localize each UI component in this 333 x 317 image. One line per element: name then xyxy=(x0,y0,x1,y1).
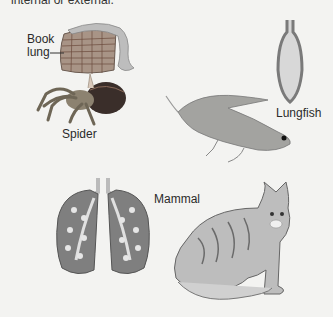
caption-fragment: internal or external. xyxy=(11,0,114,7)
book-lung-illustration xyxy=(58,24,138,76)
label-spider: Spider xyxy=(62,128,97,141)
lungfish-illustration xyxy=(158,88,298,163)
mammal-lungs-illustration xyxy=(54,178,152,278)
book-lung-leader-line xyxy=(50,52,64,54)
spider-illustration xyxy=(30,74,130,126)
label-book-lung: Book lung xyxy=(27,33,54,59)
cat-illustration xyxy=(168,178,303,308)
